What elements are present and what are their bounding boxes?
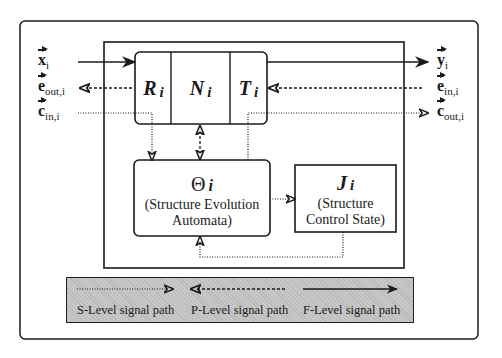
- j-symbol: Ji: [295, 172, 396, 196]
- cell-t: Ti: [230, 77, 267, 101]
- label-e-in: ein,i: [437, 78, 458, 97]
- theta-symbol: Θi: [134, 173, 270, 197]
- label-c-out: cout,i: [437, 103, 464, 122]
- cell-r: Ri: [136, 77, 171, 101]
- label-c-in: cin,i: [38, 103, 59, 122]
- legend-f-level-label: F-Level signal path: [303, 303, 400, 318]
- legend-s-level-label: S-Level signal path: [77, 303, 174, 318]
- j-box-text: Ji (Structure Control State): [295, 172, 396, 228]
- label-y-out: yi: [437, 52, 448, 71]
- legend-p-level-label: P-Level signal path: [191, 303, 288, 318]
- label-e-out: eout,i: [38, 78, 65, 97]
- theta-box-text: Θi (Structure Evolution Automata): [134, 173, 270, 229]
- label-x-in: xi: [38, 52, 49, 71]
- legend: S-Level signal path P-Level signal path …: [66, 277, 414, 323]
- cell-n: Ni: [171, 77, 230, 101]
